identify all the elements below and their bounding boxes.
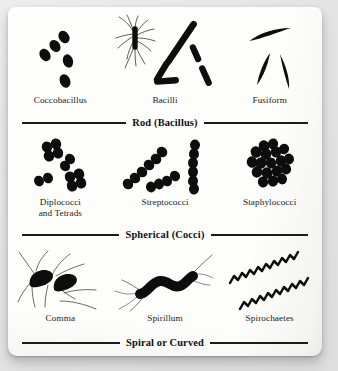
comma-vibrio-illustration — [8, 249, 113, 313]
spirochaetes-illustration — [217, 249, 322, 313]
caption-comma: Comma — [46, 313, 76, 324]
specimen-spirochaetes: Spirochaetes — [217, 249, 322, 324]
caption-coccobacillus: Coccobacillus — [34, 95, 87, 106]
divider-label-cocci: Spherical (Cocci) — [125, 229, 204, 240]
band-cocci: Diplococci and Tetrads — [8, 137, 322, 249]
divider-rule-left — [22, 342, 120, 344]
divider-rule-right — [210, 342, 308, 344]
figure-card: Coccobacillus — [8, 7, 322, 356]
caption-spirillum: Spirillum — [147, 313, 183, 324]
divider-rule-left — [22, 234, 119, 236]
divider-rule-right — [204, 122, 308, 124]
divider-label-rod: Rod (Bacillus) — [132, 117, 197, 128]
divider-rule-left — [22, 122, 126, 124]
staphylococci-illustration — [217, 137, 322, 197]
spirillum-illustration — [113, 249, 218, 313]
caption-diplococci-and-tetrads: Diplococci and Tetrads — [39, 197, 82, 218]
streptococci-illustration — [113, 137, 218, 197]
specimen-streptococci: Streptococci — [113, 137, 218, 218]
divider-rule-right — [211, 234, 308, 236]
divider-spiral: Spiral or Curved — [22, 337, 308, 348]
caption-streptococci: Streptococci — [141, 197, 188, 208]
caption-staphylococci: Staphylococci — [243, 197, 296, 208]
diplococci-tetrads-illustration — [8, 137, 113, 197]
fusiform-illustration — [217, 13, 322, 95]
caption-spirochaetes: Spirochaetes — [246, 313, 294, 324]
specimen-diplococci-and-tetrads: Diplococci and Tetrads — [8, 137, 113, 218]
bacilli-illustration — [113, 13, 218, 95]
specimen-staphylococci: Staphylococci — [217, 137, 322, 218]
specimen-comma: Comma — [8, 249, 113, 324]
band-rod: Coccobacillus — [8, 13, 322, 137]
divider-cocci: Spherical (Cocci) — [22, 229, 308, 240]
caption-bacilli: Bacilli — [152, 95, 177, 106]
coccobacillus-illustration — [8, 13, 113, 95]
specimen-fusiform: Fusiform — [217, 13, 322, 106]
specimen-bacilli: Bacilli — [113, 13, 218, 106]
divider-rod: Rod (Bacillus) — [22, 117, 308, 128]
specimen-coccobacillus: Coccobacillus — [8, 13, 113, 106]
divider-label-spiral: Spiral or Curved — [126, 337, 204, 348]
caption-fusiform: Fusiform — [252, 95, 287, 106]
specimen-spirillum: Spirillum — [113, 249, 218, 324]
band-spiral: Comma — [8, 249, 322, 356]
